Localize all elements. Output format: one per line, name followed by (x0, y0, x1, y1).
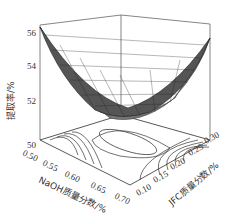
svg-text:52: 52 (27, 96, 36, 106)
svg-text:0.30: 0.30 (202, 129, 221, 145)
svg-text:0.65: 0.65 (89, 180, 108, 196)
y-axis-ticks: 0.10 0.15 0.20 0.25 0.30 (134, 129, 221, 197)
svg-text:0.50: 0.50 (21, 148, 40, 164)
z-axis-label: 提取率/% (5, 81, 16, 120)
svg-text:0.15: 0.15 (151, 168, 170, 184)
surface-mesh (40, 27, 210, 120)
svg-text:56: 56 (27, 28, 37, 38)
svg-text:0.20: 0.20 (168, 155, 187, 171)
svg-text:54: 54 (27, 61, 37, 71)
z-axis-ticks: 50 52 54 56 (27, 28, 37, 150)
response-surface-chart: 50 52 54 56 提取率/% 0.50 0.55 0.60 0.65 0.… (0, 0, 240, 222)
svg-text:0.70: 0.70 (113, 191, 132, 207)
svg-text:0.10: 0.10 (134, 181, 153, 197)
svg-text:0.55: 0.55 (41, 158, 60, 174)
svg-text:0.60: 0.60 (63, 169, 82, 185)
